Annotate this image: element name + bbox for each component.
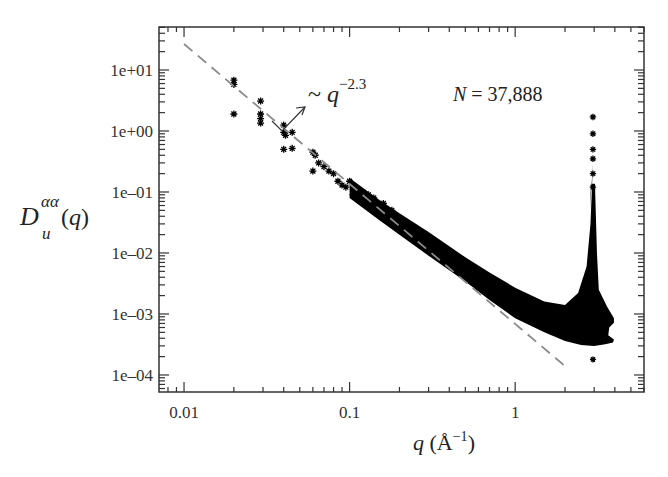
data-point bbox=[590, 184, 596, 190]
annotation-arrow-line bbox=[272, 107, 305, 131]
y-tick-label: 1e–03 bbox=[111, 305, 153, 324]
data-point bbox=[590, 114, 596, 120]
fit-tilde: ~ bbox=[308, 81, 327, 107]
data-point bbox=[289, 145, 296, 152]
ylabel-subscript: u bbox=[42, 224, 51, 243]
svg-text:~ q−2.3: ~ q−2.3 bbox=[308, 76, 366, 107]
n-annotation: N = 37,888 bbox=[452, 83, 543, 105]
tick-labels: 0.010.111e+011e+001e–011e–021e–031e–04 bbox=[110, 61, 519, 422]
y-tick-label: 1e–01 bbox=[111, 183, 153, 202]
data-point bbox=[590, 131, 596, 137]
y-axis-label: D αα u (q) bbox=[19, 192, 89, 243]
data-point bbox=[590, 170, 596, 176]
ylabel-main: D bbox=[19, 202, 39, 231]
ylabel-superscript: αα bbox=[41, 192, 60, 211]
xlabel-q: q bbox=[413, 430, 424, 455]
data-point bbox=[342, 184, 349, 191]
fit-q: q bbox=[327, 81, 339, 107]
data-point bbox=[388, 207, 395, 214]
data-point bbox=[289, 129, 296, 136]
x-tick-label: 0.01 bbox=[169, 403, 199, 422]
data-point bbox=[590, 146, 596, 152]
data-point bbox=[280, 146, 287, 153]
chart: 0.010.111e+011e+001e–011e–021e–031e–04 D… bbox=[0, 0, 668, 477]
x-axis-label: q (Å−1) bbox=[413, 429, 475, 455]
svg-text:D: D bbox=[19, 202, 39, 231]
data-point bbox=[315, 159, 322, 166]
data-point bbox=[257, 120, 264, 127]
data-point bbox=[230, 110, 237, 117]
x-tick-label: 1 bbox=[511, 403, 520, 422]
xlabel-exponent: −1 bbox=[453, 429, 468, 444]
y-tick-label: 1e+00 bbox=[110, 122, 153, 141]
data-point bbox=[380, 200, 387, 207]
data-point bbox=[590, 356, 596, 362]
xlabel-close: ) bbox=[468, 430, 475, 455]
fit-exponent: −2.3 bbox=[339, 76, 366, 92]
y-tick-label: 1e+01 bbox=[110, 61, 153, 80]
data-point bbox=[257, 98, 264, 105]
data-point bbox=[309, 168, 316, 175]
x-tick-label: 0.1 bbox=[339, 403, 360, 422]
y-tick-label: 1e–04 bbox=[111, 366, 153, 385]
xlabel-unit: (Å bbox=[424, 430, 453, 455]
y-tick-label: 1e–02 bbox=[111, 244, 153, 263]
n-value: = 37,888 bbox=[466, 83, 542, 105]
data-point bbox=[590, 156, 596, 162]
dense-data-band bbox=[350, 163, 614, 346]
ylabel-tail: (q) bbox=[61, 204, 89, 230]
svg-text:q (Å−1): q (Å−1) bbox=[413, 429, 475, 455]
data-layer bbox=[230, 77, 614, 363]
